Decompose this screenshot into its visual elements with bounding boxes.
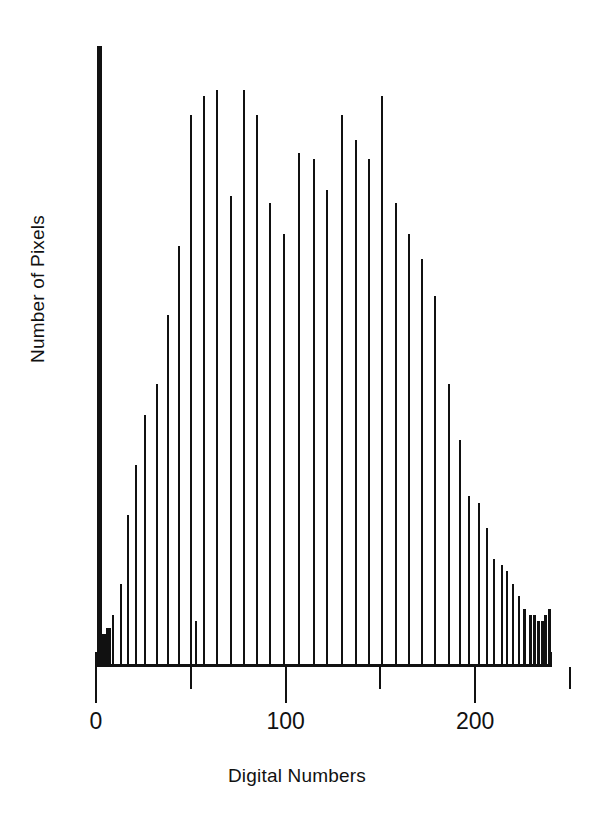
histogram-bar <box>368 159 370 665</box>
x-axis-right-cap <box>549 652 552 667</box>
x-axis-tick <box>285 667 287 703</box>
histogram-bar <box>493 559 495 665</box>
x-axis-tick-label: 100 <box>266 708 304 735</box>
x-axis-tick <box>474 667 476 703</box>
histogram-bar <box>533 615 536 665</box>
histogram-bar <box>167 315 169 665</box>
histogram-bar <box>298 153 300 666</box>
histogram-bar <box>544 615 547 665</box>
x-axis-tick <box>95 667 97 703</box>
histogram-bar <box>269 203 271 666</box>
histogram-bar <box>523 609 526 665</box>
histogram-bar <box>97 46 102 665</box>
histogram-bar <box>518 596 520 665</box>
histogram-bar <box>541 621 544 665</box>
histogram-bar <box>395 203 397 666</box>
histogram-bar <box>195 621 197 665</box>
histogram-bar <box>243 90 245 665</box>
histogram-bar <box>434 296 436 665</box>
histogram-bar <box>408 234 410 665</box>
histogram-bar <box>537 621 540 665</box>
y-axis-title: Number of Pixels <box>18 0 58 700</box>
histogram-bar <box>144 415 146 665</box>
histogram-bar <box>381 96 383 665</box>
histogram-bar <box>190 115 192 665</box>
histogram-bar <box>203 96 205 665</box>
x-axis-title: Digital Numbers <box>0 765 594 787</box>
histogram-bar <box>112 615 114 665</box>
x-axis-tick <box>379 667 381 689</box>
histogram-bar <box>421 259 423 665</box>
histogram-bar <box>529 615 532 665</box>
histogram-bar <box>506 571 508 665</box>
histogram-bar <box>468 496 470 665</box>
x-axis-tick <box>569 667 571 689</box>
histogram-bar <box>256 115 258 665</box>
x-axis-left-cap <box>95 652 98 667</box>
x-axis-tick <box>190 667 192 689</box>
histogram-bar <box>448 384 450 665</box>
x-axis-line <box>95 664 552 667</box>
histogram-bar <box>326 190 328 665</box>
histogram-bar <box>459 440 461 665</box>
histogram-bar <box>106 628 111 666</box>
histogram-bar <box>355 140 357 665</box>
histogram-bar <box>313 159 315 665</box>
plot-area <box>96 40 551 665</box>
histogram-bar <box>478 503 480 666</box>
histogram-bar <box>341 115 343 665</box>
histogram-bar <box>283 234 285 665</box>
histogram-figure: Number of Pixels 0100200 Digital Numbers <box>0 0 594 822</box>
x-axis-tick-label: 200 <box>456 708 494 735</box>
histogram-bar <box>512 584 514 665</box>
histogram-bar <box>486 528 488 666</box>
histogram-bar <box>501 565 503 665</box>
x-axis-tick-label: 0 <box>90 708 103 735</box>
histogram-bar <box>120 584 122 665</box>
histogram-bar <box>230 196 232 665</box>
histogram-bar <box>135 465 137 665</box>
histogram-bar <box>216 90 218 665</box>
histogram-bar <box>156 384 158 665</box>
histogram-bar <box>127 515 129 665</box>
histogram-bar <box>178 246 180 665</box>
